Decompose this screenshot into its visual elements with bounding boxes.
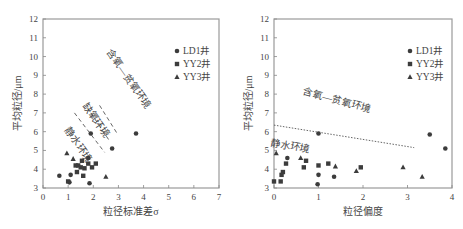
environment-annotation: 含氧—贫氧环境 xyxy=(302,85,373,115)
data-point xyxy=(90,165,94,169)
series-triangle xyxy=(274,150,425,178)
data-point xyxy=(86,161,90,165)
data-point xyxy=(359,165,363,169)
environment-annotation: 缺氧环境 xyxy=(80,100,113,140)
data-point xyxy=(354,168,359,173)
chart-right: 345678910111201234粒径偏度平均粒径/μm含氧—贫氧环境静水环境… xyxy=(242,14,455,217)
data-point xyxy=(110,146,115,151)
data-point xyxy=(68,173,73,178)
data-point xyxy=(332,174,337,179)
data-point xyxy=(285,156,290,161)
y-tick-label: 10 xyxy=(260,52,270,62)
legend-label: YY2井 xyxy=(416,58,444,69)
x-tick-label: 6 xyxy=(192,192,197,202)
legend-marker-circle xyxy=(408,49,413,54)
x-tick-label: 2 xyxy=(91,192,96,202)
x-axis-label: 粒径偏度 xyxy=(343,205,383,217)
data-point xyxy=(400,165,405,170)
data-point xyxy=(420,174,425,179)
data-point xyxy=(427,132,432,137)
x-tick-label: 2 xyxy=(361,192,366,202)
legend-label: YY3井 xyxy=(183,71,211,82)
series-square xyxy=(272,159,363,184)
x-axis-label: 粒径标准差σ xyxy=(103,205,159,217)
y-tick-label: 7 xyxy=(34,108,39,118)
chart-canvas: 345678910111201234567粒径标准差σ平均粒径/μm静水环境缺氧… xyxy=(0,0,463,229)
y-tick-label: 11 xyxy=(29,33,38,43)
y-tick-label: 5 xyxy=(34,145,39,155)
legend: LD1井YY2井YY3井 xyxy=(407,45,444,82)
data-point xyxy=(57,173,62,178)
x-tick-label: 4 xyxy=(450,192,455,202)
y-tick-label: 8 xyxy=(34,89,39,99)
y-tick-label: 6 xyxy=(265,127,270,137)
data-point xyxy=(134,131,139,136)
x-tick-label: 0 xyxy=(41,192,46,202)
y-tick-label: 4 xyxy=(34,164,39,174)
y-axis-label: 平均粒径/μm xyxy=(242,75,254,131)
data-point xyxy=(278,179,282,183)
legend-marker-triangle xyxy=(174,74,179,79)
data-point xyxy=(103,174,108,179)
legend-label: YY3井 xyxy=(416,71,444,82)
y-tick-label: 10 xyxy=(29,52,39,62)
y-tick-label: 7 xyxy=(265,108,270,118)
data-point xyxy=(281,170,285,174)
legend-marker-triangle xyxy=(407,74,412,79)
y-tick-label: 8 xyxy=(265,89,270,99)
plot-frame xyxy=(43,19,219,188)
legend-marker-circle xyxy=(175,49,180,54)
y-tick-label: 9 xyxy=(34,70,39,80)
x-tick-label: 0 xyxy=(272,192,277,202)
y-axis-label: 平均粒径/μm xyxy=(11,75,23,131)
y-tick-label: 3 xyxy=(265,183,270,193)
legend-label: LD1井 xyxy=(183,45,210,56)
data-point xyxy=(316,163,320,167)
legend-marker-square xyxy=(175,62,179,66)
y-tick-label: 4 xyxy=(265,164,270,174)
data-point xyxy=(304,159,308,163)
x-tick-label: 3 xyxy=(405,192,410,202)
data-point xyxy=(272,179,276,183)
data-point xyxy=(75,170,79,174)
data-point xyxy=(94,161,98,165)
y-tick-label: 3 xyxy=(34,183,39,193)
data-point xyxy=(316,131,321,136)
legend-marker-square xyxy=(408,62,412,66)
data-point xyxy=(315,182,320,187)
data-point xyxy=(66,179,70,183)
x-tick-label: 1 xyxy=(66,192,71,202)
legend-label: LD1井 xyxy=(416,45,443,56)
x-tick-label: 4 xyxy=(141,192,146,202)
y-tick-label: 12 xyxy=(260,14,269,24)
x-tick-label: 7 xyxy=(217,192,222,202)
data-point xyxy=(86,156,91,161)
y-tick-label: 11 xyxy=(260,33,269,43)
y-tick-label: 12 xyxy=(29,14,38,24)
data-point xyxy=(443,146,448,151)
data-point xyxy=(71,156,76,161)
environment-annotation: 含氧—贫氧环境 xyxy=(104,47,154,111)
y-tick-label: 9 xyxy=(265,70,270,80)
data-point xyxy=(88,131,93,136)
x-tick-label: 3 xyxy=(116,192,121,202)
data-point xyxy=(81,174,85,178)
legend: LD1井YY2井YY3井 xyxy=(174,45,211,82)
data-point xyxy=(80,159,84,163)
x-tick-label: 5 xyxy=(166,192,171,202)
data-point xyxy=(82,166,86,170)
data-point xyxy=(64,150,69,155)
series-square xyxy=(66,159,98,184)
data-point xyxy=(326,161,330,165)
y-tick-label: 6 xyxy=(34,127,39,137)
legend-label: YY2井 xyxy=(183,58,211,69)
data-point xyxy=(298,155,303,160)
data-point xyxy=(87,181,92,186)
data-point xyxy=(302,165,306,169)
chart-left: 345678910111201234567粒径标准差σ平均粒径/μm静水环境缺氧… xyxy=(11,14,222,217)
data-point xyxy=(284,161,288,165)
data-point xyxy=(79,165,83,169)
data-point xyxy=(316,173,321,178)
data-point xyxy=(333,164,338,169)
x-tick-label: 1 xyxy=(316,192,321,202)
